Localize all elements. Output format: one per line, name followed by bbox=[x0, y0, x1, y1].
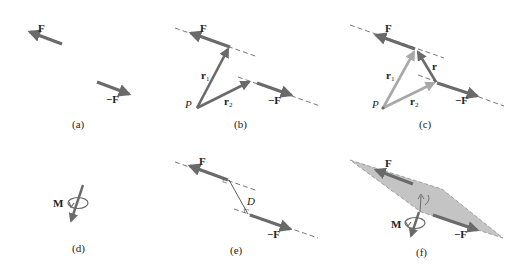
distance-label: D bbox=[246, 195, 255, 207]
panel-b: F −F P r1 r2 (b) bbox=[175, 22, 320, 131]
panel-caption: (c) bbox=[419, 118, 432, 131]
force-label: F bbox=[38, 22, 45, 34]
panel-c: F −F P r1 r2 r (c) bbox=[350, 22, 504, 131]
panel-caption: (f) bbox=[416, 246, 427, 259]
point-label: P bbox=[184, 98, 192, 110]
point-label: P bbox=[371, 98, 379, 110]
plane-of-couple bbox=[350, 160, 503, 238]
r2-label: r2 bbox=[410, 95, 419, 109]
force-arrow bbox=[30, 32, 62, 44]
r1-label: r1 bbox=[386, 69, 395, 83]
panel-caption: (b) bbox=[234, 118, 247, 131]
panel-caption: (e) bbox=[230, 244, 243, 257]
force-label: F bbox=[199, 155, 206, 167]
force-arrow bbox=[376, 35, 415, 49]
panel-e: F D −F (e) bbox=[175, 155, 318, 257]
neg-force-label: −F bbox=[268, 94, 281, 106]
force-arrow bbox=[191, 33, 230, 47]
force-arrow bbox=[190, 166, 228, 180]
moment-label: M bbox=[53, 197, 64, 209]
panel-caption: (a) bbox=[72, 118, 85, 131]
force-label: F bbox=[385, 22, 392, 34]
r1-label: r1 bbox=[201, 69, 210, 83]
neg-force-label: −F bbox=[106, 93, 119, 105]
couple-moment-figure: F −F (a) F −F P r1 r2 (b) F −F P r1 r2 r… bbox=[0, 0, 524, 270]
neg-force-arrow bbox=[250, 215, 290, 229]
neg-force-label: −F bbox=[267, 228, 280, 240]
force-label: F bbox=[200, 22, 207, 34]
moment-label: M bbox=[391, 218, 402, 230]
neg-force-label: −F bbox=[454, 228, 467, 240]
force-label: F bbox=[385, 157, 392, 169]
neg-force-label: −F bbox=[455, 94, 468, 106]
r2-label: r2 bbox=[224, 95, 233, 109]
panel-caption: (d) bbox=[72, 242, 85, 255]
moment-icon bbox=[68, 185, 88, 221]
point-p-dot bbox=[381, 106, 384, 109]
panel-d: M (d) bbox=[53, 185, 88, 255]
distance-line bbox=[229, 180, 248, 214]
r-label: r bbox=[432, 60, 437, 72]
panel-a: F −F (a) bbox=[30, 22, 129, 131]
panel-f: F −F M (f) bbox=[350, 157, 503, 259]
